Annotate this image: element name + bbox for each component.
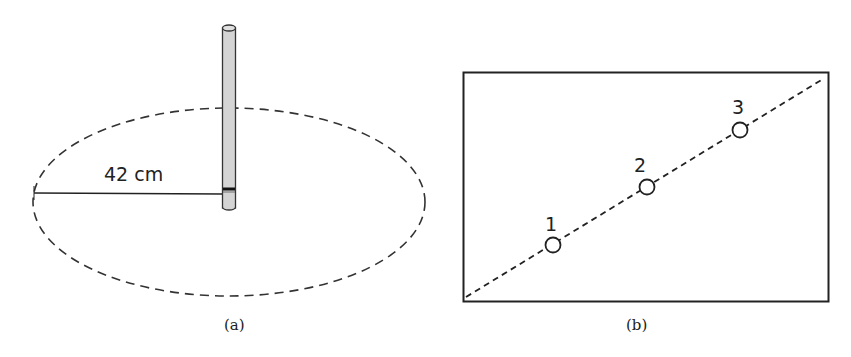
pole-band <box>223 188 235 191</box>
point-marker-1 <box>546 238 561 253</box>
point-label-2: 2 <box>634 154 646 176</box>
point-marker-2 <box>640 180 655 195</box>
point-marker-3 <box>733 123 748 138</box>
point-1: 1 <box>545 213 561 253</box>
pole <box>223 25 236 210</box>
figure: 42 cm (a) 1 2 3 (b) <box>0 0 851 357</box>
radius-line <box>34 193 223 194</box>
point-label-1: 1 <box>545 213 557 235</box>
point-3: 3 <box>732 96 748 138</box>
panel-b: 1 2 3 (b) <box>464 73 829 335</box>
panel-a: 42 cm (a) <box>33 25 425 334</box>
caption-b: (b) <box>626 316 647 334</box>
caption-a: (a) <box>224 316 245 334</box>
point-label-3: 3 <box>732 96 744 118</box>
point-2: 2 <box>634 154 655 195</box>
measurement-label: 42 cm <box>104 163 163 185</box>
pole-top <box>223 25 236 31</box>
